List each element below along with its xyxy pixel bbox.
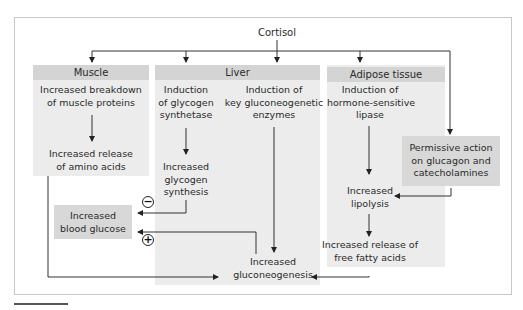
text-line: hormone-sensitive (327, 97, 413, 110)
text-line: Increased (155, 161, 217, 174)
muscle-step2: Increased release of amino acids (33, 148, 149, 173)
text-line: gluconeogenesis (225, 269, 321, 282)
text-line: Increased (54, 210, 132, 223)
text-line: Increased release of (320, 239, 420, 252)
text-line: lipolysis (327, 198, 413, 211)
text-line: key gluconeogenetic (222, 97, 326, 110)
liver-gluconeogenetic-enzymes: Induction of key gluconeogenetic enzymes (222, 84, 326, 122)
text-line: Induction (155, 84, 217, 97)
plus-sign-icon: + (142, 234, 154, 246)
text-line: Increased (327, 185, 413, 198)
text-line: on glucagon and (402, 155, 500, 168)
permissive-text: Permissive action on glucagon and catech… (402, 142, 500, 180)
minus-sign-icon: − (142, 196, 154, 208)
cortisol-label: Cortisol (247, 27, 307, 40)
adipose-fatty-acids: Increased release of free fatty acids (320, 239, 420, 264)
text-line: synthetase (155, 109, 217, 122)
footnote-rule (14, 303, 68, 305)
text-line: free fatty acids (320, 252, 420, 265)
text-line: of amino acids (33, 161, 149, 174)
liver-glycogen-synthesis: Increased glycogen synthesis (155, 161, 217, 199)
text-line: Increased (225, 256, 321, 269)
text-line: of glycogen (155, 97, 217, 110)
text-line: enzymes (222, 109, 326, 122)
text-line: Increased release (33, 148, 149, 161)
adipose-lipase: Induction of hormone-sensitive lipase (327, 84, 413, 122)
text-line: lipase (327, 109, 413, 122)
blood-glucose-text: Increased blood glucose (54, 210, 132, 235)
text-line: Increased breakdown (33, 84, 149, 97)
text-line: glycogen (155, 174, 217, 187)
text-line: catecholamines (402, 167, 500, 180)
muscle-step1: Increased breakdown of muscle proteins (33, 84, 149, 109)
text-line: Induction of (327, 84, 413, 97)
liver-gluconeogenesis: Increased gluconeogenesis (225, 256, 321, 281)
text-line: blood glucose (54, 223, 132, 236)
liver-glycogen-synthetase: Induction of glycogen synthetase (155, 84, 217, 122)
text-line: Permissive action (402, 142, 500, 155)
text-line: of muscle proteins (33, 97, 149, 110)
adipose-lipolysis: Increased lipolysis (327, 185, 413, 210)
text-line: Induction of (222, 84, 326, 97)
text-line: synthesis (155, 186, 217, 199)
